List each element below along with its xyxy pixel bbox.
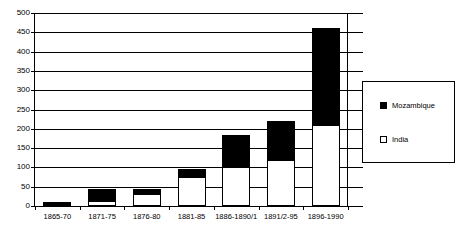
y-axis-tick bbox=[31, 206, 35, 207]
bar-segment-mozambique bbox=[43, 202, 71, 205]
bar-segment-india bbox=[312, 125, 340, 206]
y-axis-tick bbox=[31, 52, 35, 53]
gridline-stub bbox=[348, 167, 363, 168]
gridline-stub bbox=[348, 187, 363, 188]
y-tick-label: 350 bbox=[0, 67, 30, 75]
legend-item-india: India bbox=[380, 135, 408, 144]
x-axis-tick bbox=[124, 206, 125, 210]
bar-group bbox=[312, 28, 340, 206]
bar-segment-mozambique bbox=[312, 28, 340, 125]
gridline-stub bbox=[348, 110, 363, 111]
x-axis-tick bbox=[169, 206, 170, 210]
y-axis-labels: 050100150200250300350400450500 bbox=[0, 0, 30, 240]
y-tick-label: 250 bbox=[0, 106, 30, 114]
y-axis-tick bbox=[31, 71, 35, 72]
legend-label-mozambique: Mozambique bbox=[392, 101, 435, 110]
bar-group bbox=[267, 121, 295, 206]
y-tick-label: 0 bbox=[0, 202, 30, 210]
x-tick-label: 1891/2-95 bbox=[259, 212, 304, 222]
legend-label-india: India bbox=[392, 135, 408, 144]
bar-segment-mozambique bbox=[267, 121, 295, 160]
y-axis-tick bbox=[31, 129, 35, 130]
y-axis-tick bbox=[31, 13, 35, 14]
bar-group bbox=[222, 135, 250, 206]
y-axis-tick bbox=[31, 32, 35, 33]
y-axis-tick bbox=[31, 148, 35, 149]
x-axis-tick bbox=[214, 206, 215, 210]
bar-segment-mozambique bbox=[88, 189, 116, 201]
y-tick-label: 500 bbox=[0, 9, 30, 17]
bar-segment-india bbox=[178, 177, 206, 206]
gridline-stub bbox=[348, 129, 363, 130]
y-tick-label: 400 bbox=[0, 48, 30, 56]
gridline-stub bbox=[348, 148, 363, 149]
x-axis-tick bbox=[35, 206, 36, 210]
x-tick-label: 1886-1890/1 bbox=[214, 212, 259, 222]
bar-group bbox=[178, 169, 206, 206]
x-tick-label: 1881-85 bbox=[169, 212, 214, 222]
x-tick-label: 1871-75 bbox=[80, 212, 125, 222]
y-axis-tick bbox=[31, 110, 35, 111]
x-axis-tick bbox=[80, 206, 81, 210]
bar-group bbox=[88, 189, 116, 206]
bar-segment-india bbox=[222, 167, 250, 206]
x-axis-ticks bbox=[35, 206, 348, 210]
bar-segment-india bbox=[267, 160, 295, 206]
y-tick-label: 450 bbox=[0, 28, 30, 36]
x-tick-label: 1865-70 bbox=[35, 212, 80, 222]
legend-swatch-mozambique bbox=[380, 102, 387, 109]
x-axis-labels: 1865-701871-751876-801881-851886-1890/11… bbox=[35, 212, 365, 228]
y-tick-label: 300 bbox=[0, 86, 30, 94]
gridline-stub bbox=[348, 90, 363, 91]
y-axis-tick bbox=[31, 167, 35, 168]
y-tick-label: 150 bbox=[0, 144, 30, 152]
gridline-stub bbox=[348, 32, 363, 33]
y-axis-tick bbox=[31, 90, 35, 91]
gridline-stub bbox=[348, 13, 363, 14]
legend-item-mozambique: Mozambique bbox=[380, 101, 435, 110]
gridline-stub bbox=[348, 71, 363, 72]
bar-segment-mozambique bbox=[178, 169, 206, 177]
y-axis-tick bbox=[31, 187, 35, 188]
x-axis-tick bbox=[348, 206, 349, 210]
bar-group bbox=[133, 189, 161, 206]
stacked-bar-chart: 050100150200250300350400450500 1865-7018… bbox=[0, 0, 467, 240]
x-tick-label: 1896-1990 bbox=[303, 212, 348, 222]
y-tick-label: 50 bbox=[0, 183, 30, 191]
x-axis-tick bbox=[303, 206, 304, 210]
bar-segment-india bbox=[133, 194, 161, 206]
gridline-stub bbox=[348, 52, 363, 53]
bar-segment-mozambique bbox=[222, 135, 250, 168]
y-tick-label: 100 bbox=[0, 163, 30, 171]
legend: Mozambique India bbox=[362, 81, 455, 163]
legend-swatch-india bbox=[380, 136, 387, 143]
x-axis-tick bbox=[259, 206, 260, 210]
bars-layer bbox=[35, 13, 348, 206]
x-tick-label: 1876-80 bbox=[124, 212, 169, 222]
y-tick-label: 200 bbox=[0, 125, 30, 133]
bar-segment-mozambique bbox=[133, 189, 161, 195]
